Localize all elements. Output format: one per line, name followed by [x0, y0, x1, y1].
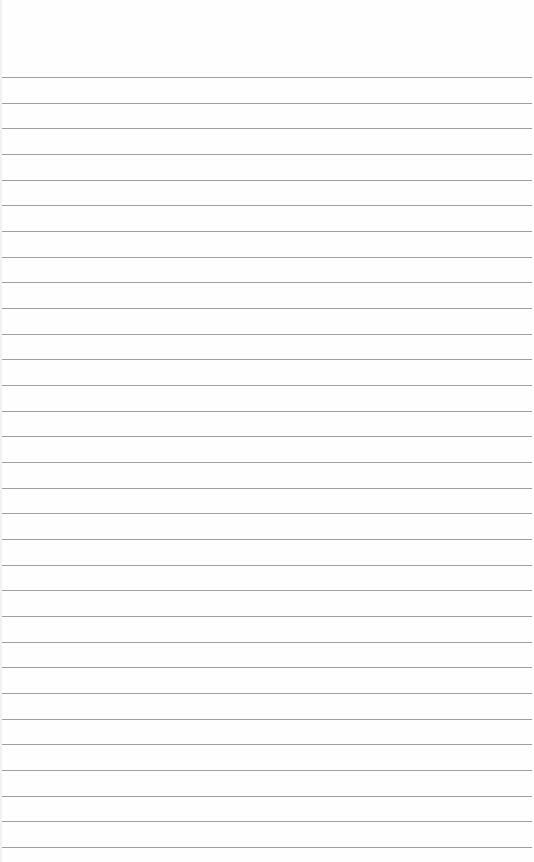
paper-edge: [0, 0, 3, 862]
ruled-line: [2, 488, 532, 489]
ruled-line: [2, 821, 532, 822]
ruled-line: [2, 796, 532, 797]
ruled-line: [2, 205, 532, 206]
ruled-line: [2, 257, 532, 258]
ruled-line: [2, 180, 532, 181]
ruled-line: [2, 693, 532, 694]
ruled-line: [2, 719, 532, 720]
ruled-line: [2, 334, 532, 335]
ruled-line: [2, 462, 532, 463]
ruled-line: [2, 436, 532, 437]
ruled-line: [2, 282, 532, 283]
ruled-line: [2, 744, 532, 745]
ruled-line: [2, 103, 532, 104]
ruled-line: [2, 847, 532, 848]
ruled-line: [2, 359, 532, 360]
ruled-line: [2, 128, 532, 129]
ruled-line: [2, 667, 532, 668]
ruled-line: [2, 411, 532, 412]
ruled-line: [2, 231, 532, 232]
ruled-line: [2, 565, 532, 566]
ruled-line: [2, 513, 532, 514]
ruled-line: [2, 154, 532, 155]
ruled-line: [2, 770, 532, 771]
ruled-line: [2, 616, 532, 617]
ruled-line: [2, 77, 532, 78]
ruled-line: [2, 385, 532, 386]
ruled-line: [2, 539, 532, 540]
ruled-line: [2, 308, 532, 309]
ruled-line: [2, 590, 532, 591]
ruled-line: [2, 642, 532, 643]
lined-paper: [0, 0, 534, 862]
